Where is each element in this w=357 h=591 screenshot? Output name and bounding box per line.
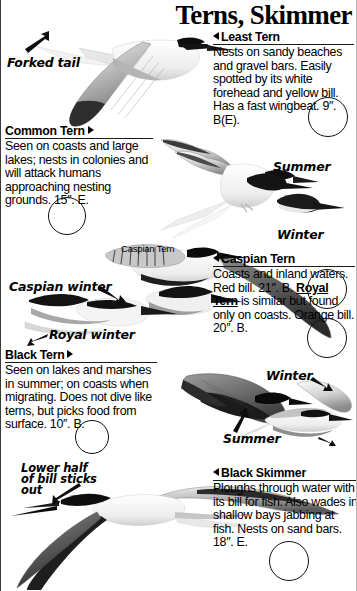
check-circle-caspian-tern[interactable] [307, 269, 347, 309]
entry-heading-caspian-tern: Caspian Tern [213, 253, 355, 267]
check-circle-black-skimmer[interactable] [269, 541, 309, 581]
entry-name: Caspian Tern [221, 252, 295, 266]
check-circle-common-tern[interactable] [48, 197, 86, 235]
entry-name: Common Tern [5, 124, 85, 138]
triangle-left-icon [213, 32, 219, 40]
entry-black-tern: Black Tern Seen on lakes and marshes in … [5, 348, 157, 432]
entry-size-code: 21″. B. [258, 281, 293, 295]
annotation-black-tern-summer: Summer [223, 432, 280, 445]
entry-body-common-tern: Seen on coasts and large lakes; nests in… [5, 140, 153, 208]
check-circle-black-tern[interactable] [75, 420, 109, 454]
entry-heading-black-tern: Black Tern [5, 349, 157, 363]
entry-black-skimmer: Black Skimmer Ploughs through water with… [213, 466, 357, 550]
annotation-black-tern-winter: Winter [266, 369, 312, 382]
second-tern-illustration [161, 139, 319, 238]
entry-name: Black Tern [5, 348, 64, 362]
field-guide-page: Terns, Skimmer Least Tern Nests on sandy… [0, 0, 357, 591]
check-circle-least-tern[interactable] [308, 97, 348, 137]
entry-common-tern: Common Tern Seen on coasts and large lak… [5, 124, 153, 208]
entry-heading-common-tern: Common Tern [5, 125, 153, 139]
triangle-right-icon [67, 350, 73, 358]
entry-heading-black-skimmer: Black Skimmer [213, 467, 357, 481]
annotation-winter-head: Winter [277, 228, 323, 241]
entry-name: Least Tern [221, 30, 280, 44]
annotation-royal-winter: Royal winter [49, 328, 135, 341]
annotation-skimmer-bill-line3: out [21, 484, 42, 497]
annotation-summer-head: Summer [273, 160, 330, 173]
triangle-right-icon [88, 126, 94, 134]
common-tern-illustration [35, 38, 233, 127]
tern-head-summer-illustration [247, 174, 313, 191]
check-circle-royal-tern[interactable] [307, 318, 347, 358]
triangle-left-icon [213, 468, 219, 476]
label-caspian-tern: Caspian Tern [121, 243, 174, 254]
tern-head-winter-illustration [277, 194, 345, 213]
annotation-forked-tail: Forked tail [7, 56, 80, 69]
entry-size-code: 18″. E. [213, 535, 248, 549]
entry-body-black-tern: Seen on lakes and marshes in summer; on … [5, 364, 157, 432]
triangle-left-icon [213, 254, 219, 262]
entry-body-black-skimmer: Ploughs through water with its bill for … [213, 482, 357, 550]
entry-description: Ploughs through water with its bill for … [213, 481, 357, 536]
entry-name: Black Skimmer [221, 466, 306, 480]
annotation-caspian-winter: Caspian winter [9, 280, 112, 293]
page-title: Terns, Skimmer [175, 2, 352, 29]
entry-heading-least-tern: Least Tern [213, 31, 354, 45]
